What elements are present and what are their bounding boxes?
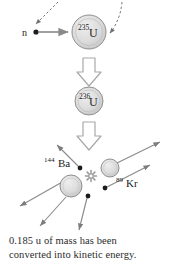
fragment-kr89-mass-number: 89 bbox=[116, 176, 124, 184]
fragment-ba144-symbol: Ba bbox=[58, 157, 70, 169]
fission-diagram-figure: n 235 U 236 U bbox=[0, 0, 171, 273]
u235-callout-dashed-arrow bbox=[110, 2, 122, 33]
fission-diagram-canvas: n 235 U 236 U bbox=[0, 0, 171, 273]
energy-release-starburst bbox=[86, 171, 97, 182]
nucleus-u236-symbol: U bbox=[89, 95, 98, 109]
figure-caption: 0.185 u of mass has been converted into … bbox=[9, 234, 169, 261]
nucleus-u236: 236 U bbox=[75, 87, 103, 115]
fragment-kr89 bbox=[101, 159, 119, 177]
nucleus-u235-symbol: U bbox=[89, 26, 98, 40]
nucleus-u235-mass-number: 235 bbox=[78, 23, 90, 32]
incoming-neutron-label: n bbox=[22, 27, 27, 38]
fragment-kr89-symbol: Kr bbox=[126, 177, 138, 189]
incoming-neutron-callout-dashed-arrow bbox=[36, 2, 58, 24]
fragment-motion-arrow-lower-left bbox=[40, 197, 66, 226]
block-arrow-absorption bbox=[77, 58, 101, 86]
nucleus-u235: 235 U bbox=[72, 15, 106, 49]
fragment-ba144 bbox=[60, 175, 82, 197]
emitted-neutron-lower bbox=[79, 194, 90, 230]
fragment-ba144-mass-number: 144 bbox=[44, 156, 55, 164]
incoming-neutron bbox=[33, 29, 68, 34]
caption-line-1: 0.185 u of mass has been bbox=[9, 234, 169, 248]
caption-line-2: converted into kinetic energy. bbox=[9, 248, 169, 262]
block-arrow-fission bbox=[77, 122, 101, 150]
